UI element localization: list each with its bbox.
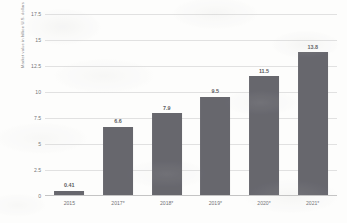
- y-tick-label: 0: [19, 193, 41, 199]
- y-tick-label: 2.5: [19, 167, 41, 173]
- x-tick-label: 2019*: [191, 200, 240, 207]
- bar-slot: 6.6: [94, 14, 143, 195]
- bar-value-label: 7.9: [163, 105, 171, 111]
- x-tick-label: 2017*: [94, 200, 143, 207]
- bar: [54, 191, 84, 195]
- bar: [103, 127, 133, 195]
- y-tick-label: 12.5: [19, 63, 41, 69]
- bar-slot: 0.41: [45, 14, 94, 195]
- y-tick-label: 5: [19, 141, 41, 147]
- x-tick-label: 2015: [45, 200, 94, 207]
- bar: [298, 52, 328, 195]
- bar-slot: 11.5: [240, 14, 289, 195]
- bar-slot: 7.9: [142, 14, 191, 195]
- bar-value-label: 11.5: [259, 68, 269, 74]
- plot-area: 0.416.67.99.511.513.8: [45, 14, 337, 196]
- chart-page: Market value in billion U.S. dollars 02.…: [0, 0, 347, 223]
- y-tick-label: 15: [19, 37, 41, 43]
- y-tick-label: 10: [19, 89, 41, 95]
- bar: [152, 113, 182, 195]
- bar-slot: 13.8: [288, 14, 337, 195]
- x-tick-label: 2020*: [240, 200, 289, 207]
- y-axis-tick-labels: 02.557.51012.51517.5: [17, 0, 41, 223]
- bar-value-label: 13.8: [307, 44, 318, 50]
- bar-value-label: 0.41: [64, 182, 75, 188]
- x-tick-label: 2018*: [142, 200, 191, 207]
- y-tick-label: 7.5: [19, 115, 41, 121]
- bar-value-label: 6.6: [114, 118, 122, 124]
- x-tick-label: 2021*: [288, 200, 337, 207]
- x-axis-tick-labels: 20152017*2018*2019*2020*2021*: [45, 200, 337, 212]
- bar-value-label: 9.5: [212, 88, 220, 94]
- y-tick-label: 17.5: [19, 11, 41, 17]
- bar: [200, 97, 230, 195]
- bar: [249, 76, 279, 195]
- bar-series: 0.416.67.99.511.513.8: [45, 14, 337, 195]
- bar-slot: 9.5: [191, 14, 240, 195]
- x-axis-line: [45, 195, 337, 196]
